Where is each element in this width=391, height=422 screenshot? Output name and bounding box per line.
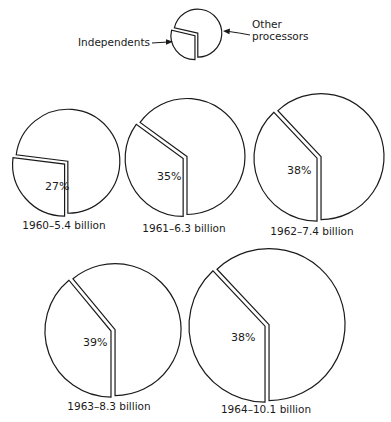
pie-year-total-label: 1960–5.4 billion: [22, 219, 105, 231]
pie-year-total-label: 1963–8.3 billion: [67, 400, 150, 412]
pie-chart-figure: Independents Other processors 27% 1960–5…: [0, 0, 391, 422]
legend-other-arrow-line: [229, 32, 250, 36]
legend: Independents Other processors: [78, 9, 309, 59]
pie-percent-label: 35%: [157, 170, 181, 183]
pie-percent-label: 27%: [45, 180, 69, 193]
legend-pie: [171, 9, 222, 59]
pie-year-total-label: 1961–6.3 billion: [142, 222, 225, 234]
pie-percent-label: 38%: [287, 164, 311, 177]
pie-1961: 35% 1961–6.3 billion: [125, 98, 245, 234]
legend-independents-arrow-line: [152, 42, 168, 43]
pie-year-total-label: 1962–7.4 billion: [270, 225, 353, 237]
pies: 27% 1960–5.4 billion 35% 1961–6.3 billio…: [13, 94, 384, 415]
legend-independents-label: Independents: [78, 36, 150, 48]
legend-other-label-line1: Other: [252, 18, 282, 30]
pie-1964: 38% 1964–10.1 billion: [189, 249, 345, 415]
legend-other-label-line2: processors: [252, 30, 309, 42]
pie-1962: 38% 1962–7.4 billion: [254, 94, 384, 237]
pie-percent-label: 39%: [83, 336, 107, 349]
pie-year-total-label: 1964–10.1 billion: [221, 403, 311, 415]
pie-percent-label: 38%: [231, 331, 255, 344]
pie-1963: 39% 1963–8.3 billion: [45, 264, 181, 412]
pie-1960: 27% 1960–5.4 billion: [13, 109, 120, 231]
legend-independents-slice: [171, 30, 195, 59]
legend-other-arrowhead-icon: [223, 28, 230, 34]
chart-canvas: Independents Other processors 27% 1960–5…: [0, 0, 391, 422]
